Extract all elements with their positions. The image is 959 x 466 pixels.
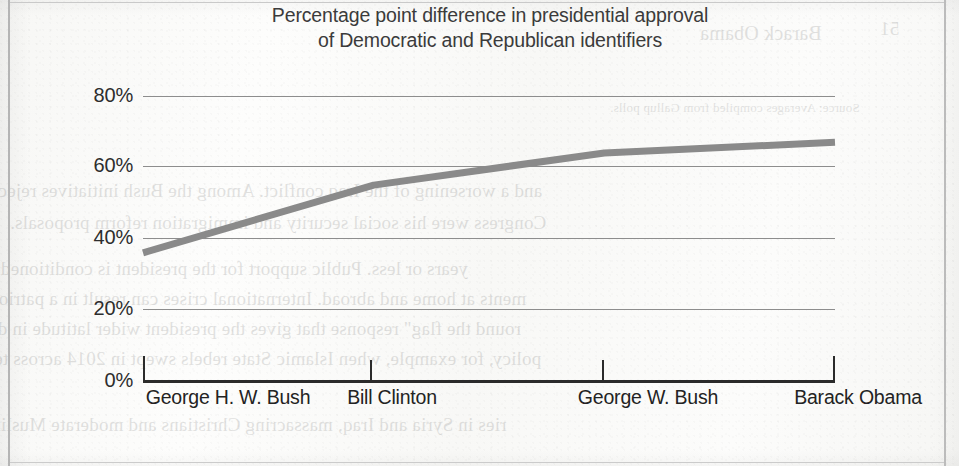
scanned-page: Barack Obama 51 Source: Averages compile… bbox=[0, 0, 959, 466]
x-axis-labels: George H. W. Bush Bill Clinton George W.… bbox=[0, 386, 959, 416]
approval-gap-line-chart: Percentage point difference in president… bbox=[0, 0, 959, 466]
x-axis-label-bill-clinton: Bill Clinton bbox=[347, 386, 437, 409]
page-frame-top bbox=[8, 2, 946, 3]
page-frame-left bbox=[8, 0, 10, 466]
x-axis-label-george-h-w-bush: George H. W. Bush bbox=[146, 386, 311, 409]
series-line-approval-gap bbox=[143, 142, 835, 253]
x-axis-label-george-w-bush: George W. Bush bbox=[578, 386, 718, 409]
page-frame-right bbox=[944, 0, 946, 466]
page-frame-bottom bbox=[8, 462, 946, 463]
x-axis-label-barack-obama: Barack Obama bbox=[794, 386, 922, 409]
